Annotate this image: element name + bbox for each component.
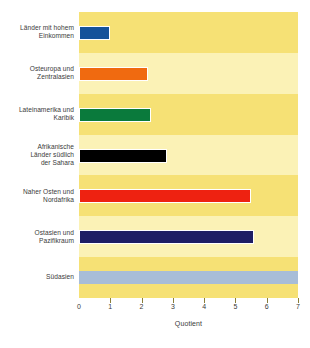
x-axis-tick-label: 2 xyxy=(134,303,150,310)
x-axis-title: Quotient xyxy=(79,320,298,327)
x-axis-tick-label: 4 xyxy=(196,303,212,310)
x-axis-tick-label: 3 xyxy=(165,303,181,310)
bar xyxy=(79,149,167,163)
bar-chart: Länder mit hohem EinkommenOsteuropa und … xyxy=(0,0,310,348)
x-axis-tick-labels: 01234567 xyxy=(0,303,310,317)
bar xyxy=(79,189,251,203)
category-label: Länder mit hohem Einkommen xyxy=(0,24,74,40)
background-band xyxy=(79,12,298,53)
category-label: Afrikanische Länder südlich der Sahara xyxy=(0,143,74,168)
category-label: Naher Osten und Nordafrika xyxy=(0,188,74,204)
bar xyxy=(79,67,148,81)
category-label-column: Länder mit hohem EinkommenOsteuropa und … xyxy=(0,12,74,298)
category-label: Ostasien und Pazifikraum xyxy=(0,229,74,245)
bar xyxy=(79,108,151,122)
x-axis-tick-label: 1 xyxy=(102,303,118,310)
x-axis-tick-label: 5 xyxy=(227,303,243,310)
plot-area xyxy=(79,12,298,298)
category-label: Lateinamerika und Karibik xyxy=(0,106,74,122)
x-axis-tick-label: 0 xyxy=(71,303,87,310)
bar xyxy=(79,271,298,284)
category-label: Südasien xyxy=(0,273,74,281)
x-axis-tick-label: 7 xyxy=(290,303,306,310)
bar xyxy=(79,26,110,40)
bar xyxy=(79,230,254,244)
x-axis-tick-label: 6 xyxy=(259,303,275,310)
category-label: Osteuropa und Zentralasien xyxy=(0,65,74,81)
